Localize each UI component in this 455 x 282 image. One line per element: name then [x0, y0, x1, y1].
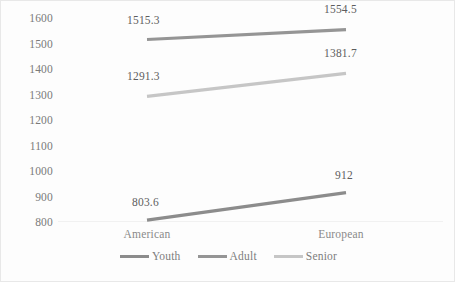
data-label-senior-european: 1381.7 — [324, 48, 357, 60]
chart-legend: Youth Adult Senior — [1, 251, 455, 263]
y-tick-1100: 1100 — [7, 141, 53, 153]
series-line-youth — [147, 193, 346, 221]
line-chart: 1600 1500 1400 1300 1200 1100 1000 900 8… — [0, 0, 455, 282]
y-tick-1500: 1500 — [7, 39, 53, 51]
y-tick-1200: 1200 — [7, 115, 53, 127]
data-label-senior-american: 1291.3 — [127, 71, 160, 83]
y-tick-800: 800 — [7, 217, 53, 229]
y-tick-1600: 1600 — [7, 13, 53, 25]
y-tick-1300: 1300 — [7, 90, 53, 102]
legend-label-adult: Adult — [230, 251, 257, 263]
legend-label-senior: Senior — [306, 251, 337, 263]
gridline-800 — [58, 221, 443, 222]
x-tick-european: European — [301, 229, 381, 241]
x-tick-american: American — [107, 229, 187, 241]
legend-swatch-adult-icon — [198, 255, 227, 258]
legend-item-youth[interactable]: Youth — [120, 251, 181, 263]
series-line-senior — [147, 73, 346, 96]
y-axis: 1600 1500 1400 1300 1200 1100 1000 900 8… — [5, 1, 53, 231]
data-label-adult-american: 1515.3 — [127, 15, 160, 27]
y-tick-1400: 1400 — [7, 64, 53, 76]
legend-item-senior[interactable]: Senior — [274, 251, 337, 263]
y-tick-1000: 1000 — [7, 166, 53, 178]
y-tick-900: 900 — [7, 192, 53, 204]
series-line-adult — [147, 30, 346, 40]
legend-label-youth: Youth — [152, 251, 181, 263]
data-label-youth-european: 912 — [335, 170, 353, 182]
series-lines — [1, 1, 455, 282]
legend-item-adult[interactable]: Adult — [198, 251, 257, 263]
data-label-youth-american: 803.6 — [132, 197, 159, 209]
legend-swatch-youth-icon — [120, 255, 149, 258]
legend-swatch-senior-icon — [274, 255, 303, 258]
data-label-adult-european: 1554.5 — [324, 4, 357, 16]
